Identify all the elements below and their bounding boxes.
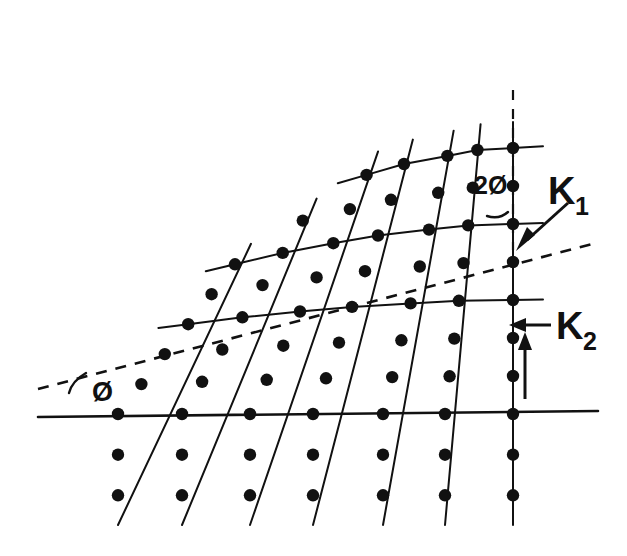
lattice-atom-node xyxy=(244,408,256,420)
lattice-atom-node xyxy=(112,408,124,420)
lattice-atom-node xyxy=(507,332,519,344)
lattice-atom-node xyxy=(507,489,519,501)
lattice-atom-node xyxy=(176,489,188,501)
lattice-atom-node xyxy=(333,336,345,348)
lattice-atom-node xyxy=(507,370,519,382)
lattice-atom-node xyxy=(236,311,248,323)
lattice-atom-node xyxy=(196,376,208,388)
lattice-atom-node xyxy=(395,334,407,346)
lattice-atom-node xyxy=(256,279,268,291)
lattice-atom-node xyxy=(377,408,389,420)
figure-root: Ø 2Ø K 1 K 2 xyxy=(0,0,627,556)
lattice-atom-node xyxy=(385,194,397,206)
lattice-atom-node xyxy=(327,237,339,249)
lattice-atom-node xyxy=(205,288,217,300)
lattice-atom-node xyxy=(423,223,435,235)
lattice-atom-node xyxy=(439,489,451,501)
lattice-atom-node xyxy=(439,408,451,420)
lattice-atom-node xyxy=(277,247,289,259)
k1-subscript: 1 xyxy=(575,192,589,220)
k1-label: K xyxy=(548,170,576,212)
lattice-atom-node xyxy=(414,260,426,272)
lattice-atom-node xyxy=(404,297,416,309)
lattice-atom-node xyxy=(507,180,519,192)
lattice-atom-node xyxy=(229,258,241,270)
lattice-atom-node xyxy=(135,378,147,390)
lattice-atom-node xyxy=(377,449,389,461)
lattice-atom-node xyxy=(372,229,384,241)
lattice-atom-node xyxy=(159,348,171,360)
lattice-atom-node xyxy=(359,265,371,277)
lattice-atom-node xyxy=(377,489,389,501)
lattice-atom-node xyxy=(244,489,256,501)
lattice-atom-node xyxy=(182,318,194,330)
lattice-atom-node xyxy=(439,449,451,461)
lattice-atom-node xyxy=(471,144,483,156)
lattice-atom-node xyxy=(294,305,306,317)
lattice-atom-node xyxy=(261,374,273,386)
lattice-atom-node xyxy=(320,372,332,384)
lattice-atom-node xyxy=(453,295,465,307)
lattice-atom-node xyxy=(432,187,444,199)
lattice-atom-node xyxy=(310,271,322,283)
lattice-atom-node xyxy=(457,257,469,269)
lattice-atom-node xyxy=(244,449,256,461)
k2-label: K xyxy=(556,305,584,347)
lattice-atom-node xyxy=(443,370,455,382)
lattice-atom-node xyxy=(507,294,519,306)
lattice-atom-node xyxy=(346,301,358,313)
lattice-atom-node xyxy=(277,340,289,352)
k2-subscript: 2 xyxy=(583,327,597,355)
lattice-atom-node xyxy=(307,408,319,420)
lattice-atom-node xyxy=(307,449,319,461)
lattice-atom-node xyxy=(507,256,519,268)
lattice-atom-node xyxy=(386,371,398,383)
lattice-atom-node xyxy=(507,449,519,461)
phi-angle-label: Ø xyxy=(92,377,113,407)
lattice-diffraction-diagram: Ø 2Ø K 1 K 2 xyxy=(0,0,627,556)
lattice-atom-node xyxy=(297,214,309,226)
two-phi-angle-label: 2Ø xyxy=(474,171,507,199)
lattice-atom-node xyxy=(176,408,188,420)
lattice-atom-node xyxy=(398,158,410,170)
lattice-atom-node xyxy=(112,449,124,461)
lattice-atom-node xyxy=(507,408,519,420)
lattice-atom-node xyxy=(507,218,519,230)
lattice-atom-node xyxy=(176,449,188,461)
lattice-atom-node xyxy=(307,489,319,501)
lattice-atom-node xyxy=(462,219,474,231)
lattice-atom-node xyxy=(448,332,460,344)
lattice-atom-node xyxy=(344,203,356,215)
lattice-atom-node xyxy=(360,169,372,181)
lattice-atom-node xyxy=(216,343,228,355)
lattice-atom-node xyxy=(441,150,453,162)
lattice-atom-node xyxy=(112,489,124,501)
lattice-atom-node xyxy=(507,142,519,154)
